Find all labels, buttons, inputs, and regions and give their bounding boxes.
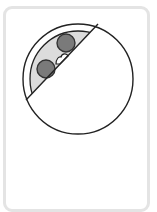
circle-segment-illustration [0, 0, 157, 197]
dot-upper [57, 34, 75, 52]
dot-lower [37, 60, 55, 78]
